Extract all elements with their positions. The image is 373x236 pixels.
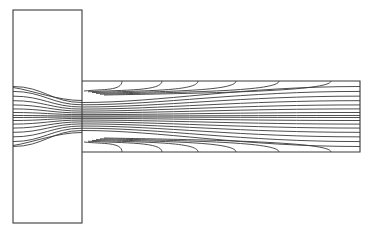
contour-line (13, 87, 360, 103)
contour-diagram: contour-plot (0, 0, 373, 236)
chamber-boundary (13, 10, 82, 223)
contour-plot-canvas (0, 0, 373, 236)
contour-lines (13, 81, 360, 152)
contour-line (13, 117, 360, 118)
contour-line (13, 131, 360, 147)
contour-line (13, 101, 360, 109)
contour-line (84, 142, 122, 152)
contour-line (13, 115, 360, 116)
contour-line (84, 81, 122, 91)
contour-line (13, 124, 360, 132)
